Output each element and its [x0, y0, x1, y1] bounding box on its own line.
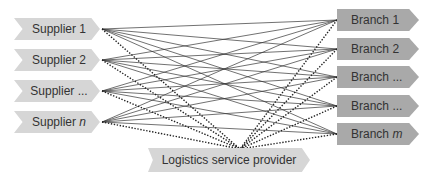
branch-2-label: Branch 2: [351, 42, 399, 56]
supplier-n-label: Supplier n: [32, 115, 86, 129]
branch-ellipsis-2-label: Branch ...: [351, 99, 402, 113]
branch-ellipsis-2-node: Branch ...: [337, 95, 419, 117]
supplier-1-node: Supplier 1: [14, 18, 100, 40]
supplier-1-label: Supplier 1: [32, 22, 86, 36]
logistics-service-provider-node: Logistics service provider: [148, 148, 310, 172]
branch-m-label: Branch m: [351, 127, 402, 141]
logistics-service-provider-label: Logistics service provider: [162, 153, 297, 167]
supplier-2-node: Supplier 2: [14, 49, 100, 71]
branch-m-node: Branch m: [337, 123, 419, 145]
branch-ellipsis-1-label: Branch ...: [351, 70, 402, 84]
branch-1-node: Branch 1: [337, 9, 419, 31]
supplier-ellipsis-label: Supplier ...: [30, 84, 87, 98]
branch-2-node: Branch 2: [337, 38, 419, 60]
branch-1-label: Branch 1: [351, 13, 399, 27]
supplier-2-label: Supplier 2: [32, 53, 86, 67]
supplier-n-node: Supplier n: [14, 111, 100, 133]
branch-ellipsis-1-node: Branch ...: [337, 66, 419, 88]
supplier-ellipsis-node: Supplier ...: [14, 80, 100, 102]
